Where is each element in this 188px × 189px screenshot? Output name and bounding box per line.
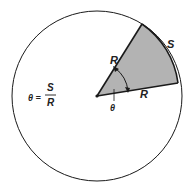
label-radius-top: R (110, 54, 118, 66)
formula-numerator: S (47, 82, 54, 93)
center-point (95, 94, 98, 97)
label-radius-bottom: R (140, 88, 148, 100)
radian-diagram: R R S θ θ = S R (0, 0, 188, 189)
formula-lhs: θ = (28, 93, 42, 103)
formula-denominator: R (47, 97, 55, 108)
label-theta: θ (110, 103, 115, 113)
label-arc-s: S (167, 38, 175, 50)
